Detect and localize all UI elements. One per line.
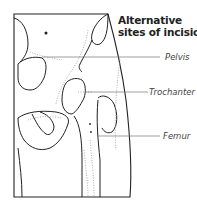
femur-shaft-right (97, 100, 100, 197)
pubis-outline (18, 57, 46, 90)
diagram-title: Alternative sites of incision (118, 14, 197, 38)
obturator-foramen (32, 112, 54, 135)
label-femur: Femur (163, 131, 190, 141)
pelvis-inner-edge (79, 40, 92, 72)
label-pelvis: Pelvis (165, 52, 190, 62)
thigh-inner-edge (18, 148, 22, 197)
femoral-head (62, 79, 85, 115)
bone-stipple (28, 30, 120, 197)
title-line-1: Alternative (118, 14, 197, 26)
ilium-outline (14, 18, 28, 62)
pelvic-crest (92, 14, 108, 45)
femur-shaft (74, 116, 82, 197)
frame-outline (14, 14, 131, 197)
pelvis-marker (45, 32, 48, 35)
label-trochanter: Trochanter (149, 87, 195, 97)
title-line-2: sites of incision (118, 26, 197, 38)
greater-trochanter (98, 96, 117, 133)
